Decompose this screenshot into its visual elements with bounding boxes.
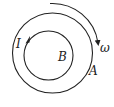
current-arrow-icon [26, 36, 31, 44]
rotation-arrow-icon [50, 3, 98, 43]
ring-label: A [89, 65, 98, 77]
current-label: I [16, 38, 21, 50]
angular-velocity-label: ω [100, 42, 110, 54]
field-label: B [58, 51, 67, 63]
rings-diagram [0, 0, 114, 107]
diagram-canvas: I B A ω [0, 0, 114, 107]
